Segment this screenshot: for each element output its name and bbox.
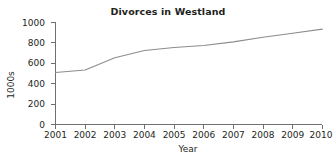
y-tick-label-1000: 1000 [22, 18, 45, 28]
x-tick-label-2006: 2006 [192, 130, 215, 140]
x-tick-label-2004: 2004 [133, 130, 156, 140]
y-axis-title: 1000s [6, 71, 16, 99]
x-tick-label-2008: 2008 [252, 130, 275, 140]
y-tick-label-600: 600 [28, 58, 45, 68]
y-tick-label-800: 800 [28, 38, 45, 48]
line-chart-plot: 1000s 1000 800 600 400 200 0 2001 2002 2… [0, 0, 336, 160]
x-tick-label-2005: 2005 [163, 130, 186, 140]
x-tick-label-2003: 2003 [103, 130, 126, 140]
chart-container: Divorces in Westland 1000s 1000 800 600 … [0, 0, 336, 160]
y-tick-label-200: 200 [28, 99, 45, 109]
x-tick-label-2002: 2002 [74, 130, 97, 140]
y-tick-label-400: 400 [28, 79, 45, 89]
y-tick-label-0: 0 [39, 120, 45, 130]
divorces-series-line [56, 29, 323, 72]
x-tick-label-2001: 2001 [44, 130, 67, 140]
x-tick-label-2010: 2010 [310, 130, 333, 140]
x-tick-label-2009: 2009 [281, 130, 304, 140]
x-axis-title: Year [177, 144, 197, 154]
x-tick-label-2007: 2007 [222, 130, 245, 140]
